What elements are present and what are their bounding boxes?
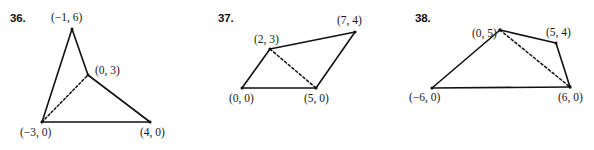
- figure-37-dashed-edges: [270, 49, 316, 88]
- figure-37-number: 37.: [218, 13, 234, 25]
- figure-38-number: 38.: [415, 13, 431, 25]
- figure-38-vertex-label-bottom-right: (6, 0): [558, 92, 583, 104]
- figure-38-vertex-label-bottom-left: (−6, 0): [409, 92, 440, 104]
- figure-36-vertex-label-bottom-left: (−3, 0): [20, 127, 51, 139]
- figure-36-vertex-label-mid: (0, 3): [95, 65, 120, 77]
- exercise-figures-page: 36. (−1, 6) (0, 3) (4, 0) (−3, 0) 37.: [0, 0, 594, 150]
- figure-37-vertex-label-lower-left: (0, 0): [229, 93, 254, 105]
- figure-36-vertex-label-top: (−1, 6): [51, 12, 82, 24]
- figure-38-vertex-label-top-left: (0, 5): [472, 28, 497, 40]
- figure-38-solid-edges: [432, 30, 570, 88]
- figure-36-number: 36.: [10, 13, 26, 25]
- figure-37-vertex-label-upper-left: (2, 3): [254, 34, 279, 46]
- figure-37-vertex-label-lower-right: (5, 0): [304, 93, 329, 105]
- figure-38-vertex-label-top-right: (5, 4): [546, 27, 571, 39]
- figure-36-vertex-label-bottom-right: (4, 0): [140, 127, 165, 139]
- figure-37-vertex-label-upper-right: (7, 4): [337, 15, 362, 27]
